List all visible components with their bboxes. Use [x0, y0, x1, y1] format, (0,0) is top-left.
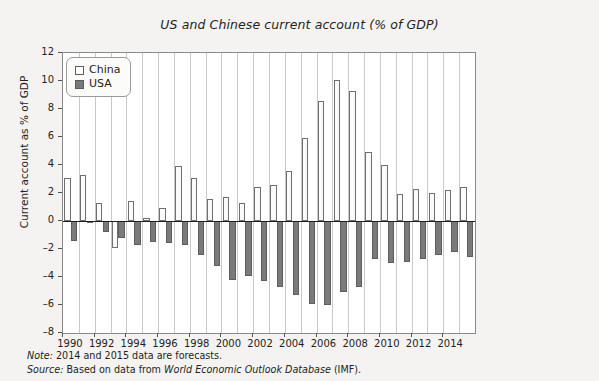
- bar-usa-2006: [324, 221, 330, 305]
- y-tick-label: –4: [30, 270, 54, 281]
- y-tick-label: 10: [30, 74, 54, 85]
- grid-line: [158, 53, 159, 333]
- legend-swatch-usa-icon: [75, 80, 84, 89]
- bar-china-2013: [429, 193, 435, 221]
- bar-china-2005: [302, 138, 308, 221]
- legend-item-china: China: [75, 63, 120, 77]
- grid-line: [396, 53, 397, 333]
- x-tick-mark: [157, 333, 158, 337]
- bar-china-1998: [191, 178, 197, 221]
- bar-china-2004: [286, 171, 292, 221]
- bar-china-1994: [128, 201, 134, 221]
- source-footnote: Source: Based on data from World Economi…: [27, 364, 361, 375]
- y-tick-label: –8: [30, 326, 54, 337]
- bar-china-1999: [207, 199, 213, 221]
- chart-title: US and Chinese current account (% of GDP…: [0, 17, 599, 32]
- x-tick-mark: [94, 333, 95, 337]
- bar-china-1991: [80, 175, 86, 221]
- bar-usa-2009: [372, 221, 378, 259]
- x-tick-mark: [316, 333, 317, 337]
- bar-usa-2005: [309, 221, 315, 304]
- bar-usa-2012: [420, 221, 426, 259]
- x-tick-mark: [411, 333, 412, 337]
- bar-china-2008: [349, 91, 355, 221]
- grid-line: [221, 53, 222, 333]
- bar-usa-2004: [293, 221, 299, 295]
- bar-usa-1992: [103, 221, 109, 232]
- bar-china-1997: [175, 166, 181, 221]
- bar-usa-2000: [229, 221, 235, 280]
- y-axis-title: Current account as % of GDP: [18, 32, 30, 272]
- bar-usa-1999: [214, 221, 220, 266]
- bar-china-2012: [413, 189, 419, 221]
- bar-usa-2008: [356, 221, 362, 287]
- bar-china-2011: [397, 194, 403, 221]
- bar-usa-1998: [198, 221, 204, 255]
- bar-usa-2013: [435, 221, 441, 255]
- bar-usa-2010: [388, 221, 394, 263]
- zero-line: [63, 221, 475, 222]
- bar-usa-2015: [467, 221, 473, 257]
- bar-china-2001: [239, 203, 245, 221]
- bar-usa-1997: [182, 221, 188, 245]
- y-tick-label: –6: [30, 298, 54, 309]
- bar-usa-1990: [71, 221, 77, 241]
- bar-usa-1994: [134, 221, 140, 245]
- bar-china-1990: [64, 178, 70, 221]
- legend-label: China: [89, 63, 120, 77]
- bar-china-2002: [254, 187, 260, 221]
- x-tick-mark: [442, 333, 443, 337]
- y-tick-label: 0: [30, 214, 54, 225]
- y-tick-label: 4: [30, 158, 54, 169]
- legend-swatch-china-icon: [75, 66, 84, 75]
- y-tick-label: 2: [30, 186, 54, 197]
- bar-china-1992: [96, 203, 102, 221]
- x-tick-label: 2014: [430, 338, 470, 349]
- y-tick-label: 6: [30, 130, 54, 141]
- legend-label: USA: [89, 77, 112, 91]
- source-suffix: (IMF).: [334, 364, 361, 375]
- bar-china-2006: [318, 101, 324, 221]
- note-label: Note:: [27, 350, 53, 361]
- source-label: Source:: [27, 364, 63, 375]
- grid-line: [142, 53, 143, 333]
- bar-china-2003: [270, 185, 276, 221]
- bar-usa-2007: [340, 221, 346, 292]
- bar-china-1993: [112, 221, 118, 248]
- bar-china-2010: [381, 165, 387, 221]
- x-tick-mark: [252, 333, 253, 337]
- x-tick-mark: [220, 333, 221, 337]
- x-tick-mark: [284, 333, 285, 337]
- chart-page: US and Chinese current account (% of GDP…: [0, 0, 599, 381]
- bar-usa-1993: [118, 221, 124, 238]
- x-tick-mark: [347, 333, 348, 337]
- bar-china-2014: [445, 190, 451, 221]
- grid-line: [237, 53, 238, 333]
- x-tick-mark: [62, 333, 63, 337]
- note-text: 2014 and 2015 data are forecasts.: [56, 350, 222, 361]
- source-prefix: Based on data from: [66, 364, 161, 375]
- source-publication: World Economic Outlook Database: [164, 364, 331, 375]
- x-tick-mark: [189, 333, 190, 337]
- bar-china-2009: [365, 152, 371, 221]
- y-tick-label: 12: [30, 46, 54, 57]
- bar-china-1996: [159, 208, 165, 221]
- x-tick-mark: [125, 333, 126, 337]
- bar-china-2015: [460, 187, 466, 221]
- bar-china-2000: [223, 197, 229, 221]
- bar-usa-2011: [404, 221, 410, 262]
- y-tick-label: 8: [30, 102, 54, 113]
- bar-usa-1995: [150, 221, 156, 242]
- note-footnote: Note: 2014 and 2015 data are forecasts.: [27, 350, 222, 361]
- grid-line: [206, 53, 207, 333]
- bar-usa-2002: [261, 221, 267, 281]
- bar-china-2007: [334, 80, 340, 221]
- x-tick-mark: [379, 333, 380, 337]
- bar-usa-2003: [277, 221, 283, 287]
- chart-legend: ChinaUSA: [66, 57, 131, 97]
- bar-usa-2014: [451, 221, 457, 252]
- legend-item-usa: USA: [75, 77, 120, 91]
- bar-usa-1996: [166, 221, 172, 243]
- y-tick-label: –2: [30, 242, 54, 253]
- bar-usa-2001: [245, 221, 251, 276]
